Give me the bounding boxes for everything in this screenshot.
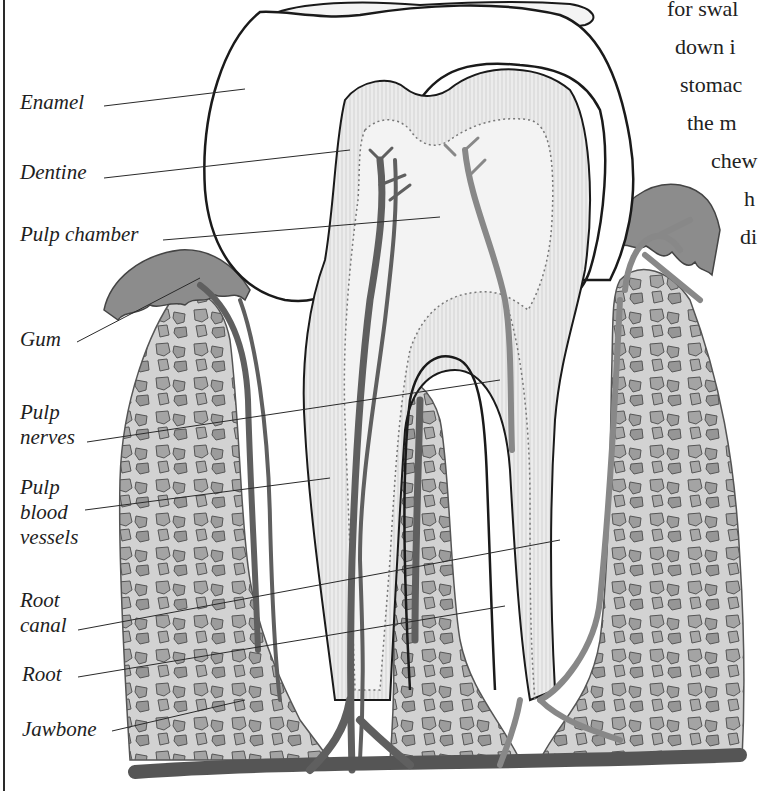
- body-text-line: h: [744, 180, 755, 217]
- tooth-illustration: [0, 0, 759, 791]
- jawbone-left: [120, 292, 330, 760]
- label-line: Root: [20, 588, 67, 613]
- label-line: blood: [20, 500, 78, 525]
- label-root: Root: [22, 662, 62, 687]
- body-text-line: stomac: [680, 66, 742, 103]
- body-text-line: for swal: [667, 0, 738, 27]
- label-pulp-chamber: Pulp chamber: [20, 222, 138, 247]
- jawbone-right: [540, 270, 744, 760]
- label-gum: Gum: [20, 327, 61, 352]
- body-text-line: di: [740, 218, 757, 255]
- label-line: Pulp: [20, 475, 78, 500]
- body-text-line: chew: [711, 142, 757, 179]
- label-pulp-blood-vessels: Pulp blood vessels: [20, 475, 78, 550]
- label-root-canal: Root canal: [20, 588, 67, 638]
- label-line: nerves: [20, 425, 75, 450]
- label-pulp-nerves: Pulp nerves: [20, 400, 75, 450]
- label-line: vessels: [20, 525, 78, 550]
- label-jawbone: Jawbone: [22, 717, 97, 742]
- body-text-line: the m: [687, 104, 737, 141]
- label-dentine: Dentine: [20, 160, 86, 185]
- body-text-line: down i: [675, 28, 736, 65]
- label-line: canal: [20, 613, 67, 638]
- label-enamel: Enamel: [20, 90, 84, 115]
- label-line: Pulp: [20, 400, 75, 425]
